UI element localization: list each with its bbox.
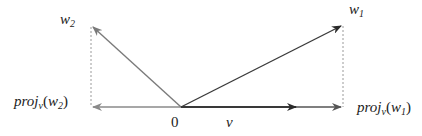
projection-diagram: w2 w1 0 v projv(w2) projv(w1) (0, 0, 422, 136)
w1-arrow (181, 26, 341, 107)
proj-w1-label: projv(w1) (357, 100, 411, 117)
w2-arrow (93, 27, 181, 107)
origin-label: 0 (171, 115, 179, 130)
v-label: v (226, 115, 233, 130)
w2-label: w2 (60, 12, 75, 29)
w1-label: w1 (349, 2, 364, 19)
proj-w2-label: projv(w2) (14, 94, 68, 111)
